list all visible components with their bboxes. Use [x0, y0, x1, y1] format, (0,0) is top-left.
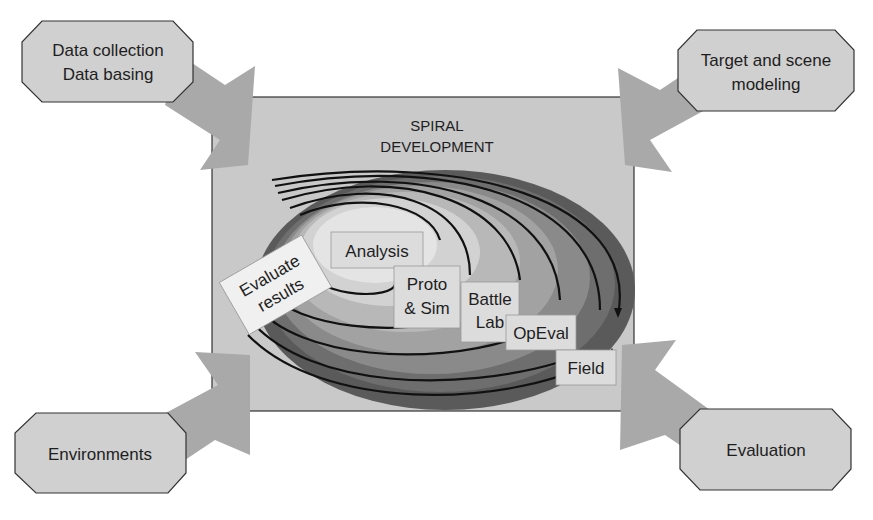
- stage-field: Field: [556, 350, 616, 385]
- title-line2: DEVELOPMENT: [380, 138, 493, 155]
- battle-line2: Lab: [476, 313, 504, 332]
- target-scene-line2: modeling: [732, 75, 801, 94]
- stage-opeval: OpEval: [506, 315, 576, 350]
- box-data-collection: Data collection Data basing: [22, 21, 193, 102]
- target-scene-line1: Target and scene: [701, 51, 831, 70]
- box-environments: Environments: [15, 413, 186, 493]
- box-evaluation: Evaluation: [680, 409, 851, 490]
- box-target-scene: Target and scene modeling: [678, 30, 854, 111]
- proto-line1: Proto: [407, 275, 448, 294]
- evaluation-label: Evaluation: [726, 441, 805, 460]
- environments-label: Environments: [48, 445, 152, 464]
- opeval-label: OpEval: [513, 324, 569, 343]
- stage-proto-sim: Proto & Sim: [394, 266, 460, 328]
- data-collection-line1: Data collection: [52, 41, 164, 60]
- spiral-development-diagram: Evaluate results Analysis Proto & Sim Ba…: [0, 0, 873, 520]
- battle-line1: Battle: [468, 290, 511, 309]
- title-line1: SPIRAL: [410, 117, 463, 134]
- data-collection-line2: Data basing: [63, 65, 154, 84]
- analysis-label: Analysis: [345, 242, 408, 261]
- proto-line2: & Sim: [404, 299, 449, 318]
- stage-analysis: Analysis: [331, 232, 423, 268]
- field-label: Field: [568, 359, 605, 378]
